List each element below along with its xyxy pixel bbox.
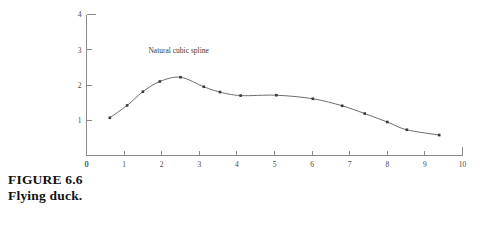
data-point-marker	[159, 80, 162, 83]
y-tick-label: 2	[78, 81, 82, 90]
curve-annotation-label: Natural cubic spline	[148, 46, 209, 55]
chart-axes	[87, 15, 463, 156]
data-point-markers	[109, 76, 441, 136]
data-point-marker	[179, 76, 182, 79]
y-tick-label: 0	[85, 160, 89, 169]
data-point-marker	[126, 104, 129, 107]
data-point-marker	[109, 116, 112, 119]
axis-frame	[87, 15, 463, 156]
x-tick-label: 6	[310, 160, 314, 169]
y-tick-label: 4	[78, 10, 82, 19]
data-point-marker	[219, 91, 222, 94]
x-axis-tick-labels: 012345678910	[85, 160, 467, 169]
annotation-text: Natural cubic spline	[148, 46, 209, 55]
spline-chart: 012345678910 01234 Natural cubic spline	[0, 0, 482, 175]
data-point-marker	[275, 94, 278, 97]
data-point-marker	[386, 121, 389, 124]
data-point-marker	[341, 105, 344, 108]
x-tick-label: 3	[197, 160, 201, 169]
y-tick-label: 1	[78, 116, 82, 125]
chart-plot-area: 012345678910 01234 Natural cubic spline	[0, 0, 482, 175]
data-point-marker	[203, 85, 206, 88]
chart-ticks	[87, 15, 425, 156]
x-tick-label: 8	[385, 160, 389, 169]
data-point-marker	[142, 90, 145, 93]
y-tick-label: 3	[78, 46, 82, 55]
data-point-marker	[312, 97, 315, 100]
x-tick-label: 4	[235, 160, 239, 169]
x-tick-label: 10	[459, 160, 467, 169]
x-tick-label: 1	[122, 160, 126, 169]
x-tick-label: 2	[160, 160, 164, 169]
spline-line	[110, 77, 439, 135]
spline-curve	[110, 77, 439, 135]
data-point-marker	[438, 134, 441, 137]
data-point-marker	[406, 128, 409, 131]
x-tick-label: 7	[348, 160, 352, 169]
figure-caption-text: Flying duck.	[8, 188, 208, 204]
x-tick-label: 9	[423, 160, 427, 169]
figure-container: 012345678910 01234 Natural cubic spline …	[0, 0, 482, 230]
data-point-marker	[239, 94, 242, 97]
x-tick-label: 5	[273, 160, 277, 169]
data-point-marker	[363, 112, 366, 115]
figure-caption: FIGURE 6.6 Flying duck.	[8, 172, 208, 203]
figure-caption-label: FIGURE 6.6	[8, 172, 208, 188]
